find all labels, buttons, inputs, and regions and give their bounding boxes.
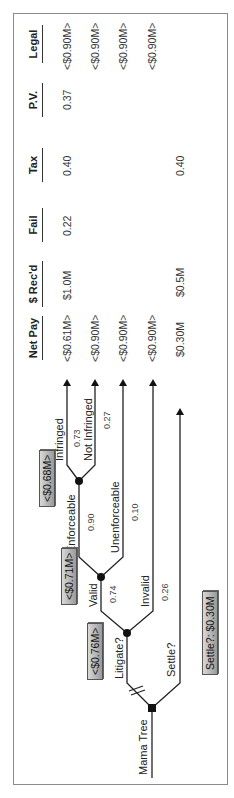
validity-value-box: <$0.71M> xyxy=(61,548,77,605)
row-infringed-pv: 0.37 xyxy=(61,90,73,110)
enforceable-probability: 0.90 xyxy=(85,513,97,531)
row-invalid-legal: <$0.90M> xyxy=(146,23,158,70)
enforceability-value-box: <$0.68M> xyxy=(39,450,55,507)
header-fail: Fail xyxy=(27,208,39,242)
row-unenforceable-legal: <$0.90M> xyxy=(117,23,129,70)
settle-value-box: Settle?: $0.30M xyxy=(202,591,218,675)
litigate-value-box: <$0.76M> xyxy=(87,623,103,680)
header-underline xyxy=(42,148,43,182)
unenforceable-probability: 0.10 xyxy=(129,503,141,521)
not-infringed-probability: 0.27 xyxy=(101,411,113,429)
header-underline xyxy=(42,25,43,63)
row-infringed-net-pay: <$0.61M> xyxy=(61,315,73,362)
header-net-pay: Net Pay xyxy=(27,314,39,362)
row-settle-net-pay: $0.30M xyxy=(174,322,186,357)
header-pv: P.V. xyxy=(27,83,39,117)
row-invalid-net-pay: <$0.90M> xyxy=(146,315,158,362)
row-infringed-legal: <$0.90M> xyxy=(61,23,73,70)
decision-tree-canvas: Mama Tree Litigate? Settle? Valid 0.74 I… xyxy=(13,13,230,787)
decision-node-icon xyxy=(148,704,156,712)
settle-label: Settle? xyxy=(165,643,177,677)
row-infringed-tax: 0.40 xyxy=(61,156,73,176)
litigate-label: Litigate? xyxy=(113,637,125,679)
valid-probability: 0.74 xyxy=(107,585,119,603)
header-tax: Tax xyxy=(27,148,39,182)
header-underline xyxy=(42,261,43,307)
root-label: Mama Tree xyxy=(137,719,149,775)
header-underline xyxy=(42,83,43,117)
row-infringed-fail: 0.22 xyxy=(61,216,73,236)
header-underline xyxy=(42,316,43,360)
header-underline xyxy=(42,208,43,242)
row-infringed-rec: $1.0M xyxy=(61,271,73,300)
invalid-probability: 0.26 xyxy=(159,583,171,601)
row-settle-tax: 0.40 xyxy=(174,156,186,176)
invalid-label: Invalid xyxy=(139,575,151,607)
row-not-infringed-legal: <$0.90M> xyxy=(89,23,101,70)
row-settle-rec: $0.5M xyxy=(174,268,186,297)
header-rec: $ Rec'd xyxy=(27,259,39,309)
valid-label: Valid xyxy=(87,583,99,607)
enforceable-label: Enforceable xyxy=(65,494,77,553)
row-not-infringed-net-pay: <$0.90M> xyxy=(89,315,101,362)
row-unenforceable-net-pay: <$0.90M> xyxy=(117,315,129,362)
header-legal: Legal xyxy=(27,25,39,63)
unenforceable-label: Unenforceable xyxy=(109,481,121,553)
not-infringed-label: Not Infringed xyxy=(82,398,94,461)
